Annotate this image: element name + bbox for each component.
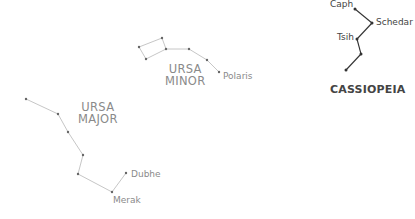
constellation-line	[58, 114, 68, 132]
star-chart: URSA MINOR Polaris URSA MAJOR Dubhe Mera…	[0, 0, 415, 219]
constellation-line	[139, 47, 146, 59]
constellation-line	[162, 38, 166, 49]
constellation-line	[78, 155, 83, 174]
ursa-major-title: URSA MAJOR	[78, 101, 118, 125]
star-dot	[218, 71, 220, 73]
star-dot	[125, 172, 127, 174]
star-dot	[371, 22, 374, 25]
star-dot	[345, 69, 348, 72]
star-dot	[67, 131, 69, 133]
cassiopeia-title: CASSIOPEIA	[330, 84, 406, 95]
star-dot	[354, 8, 357, 11]
constellation-line	[26, 99, 58, 114]
star-label-polaris: Polaris	[223, 72, 253, 81]
star-dot	[161, 37, 163, 39]
star-dot	[145, 58, 147, 60]
star-dot	[77, 173, 79, 175]
star-label-caph: Caph	[330, 0, 353, 9]
star-dot	[82, 154, 84, 156]
constellation-line	[146, 49, 166, 59]
star-dot	[25, 98, 27, 100]
star-label-merak: Merak	[113, 196, 141, 205]
constellation-line	[346, 54, 361, 70]
constellation-line	[78, 174, 112, 192]
star-dot	[188, 48, 190, 50]
constellation-line	[139, 38, 162, 47]
constellation-line	[357, 39, 361, 54]
star-dot	[57, 113, 59, 115]
star-dot	[165, 48, 167, 50]
ursa-minor-title: URSA MINOR	[165, 63, 205, 87]
ursa-major-line2: MAJOR	[78, 113, 118, 125]
star-dot	[356, 38, 359, 41]
star-dot	[206, 59, 208, 61]
star-dot	[111, 191, 113, 193]
constellation-line	[355, 9, 372, 23]
star-label-dubhe: Dubhe	[131, 170, 161, 179]
constellation-line	[207, 60, 219, 72]
constellation-line	[189, 49, 207, 60]
constellation-line	[68, 132, 83, 155]
star-label-schedar: Schedar	[376, 18, 413, 27]
star-label-tsih: Tsih	[337, 33, 354, 42]
ursa-minor-line2: MINOR	[165, 75, 205, 87]
star-dot	[138, 46, 140, 48]
constellation-line	[112, 173, 126, 192]
star-dot	[360, 53, 363, 56]
constellation-line	[357, 23, 372, 39]
